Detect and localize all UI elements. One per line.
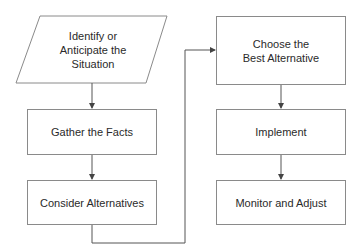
node-consider-label: Consider Alternatives (40, 196, 144, 210)
node-gather-label: Gather the Facts (51, 125, 133, 139)
node-implement: Implement (216, 109, 346, 155)
node-choose-label: Choose the Best Alternative (243, 37, 319, 65)
node-identify-label: Identify or Anticipate the Situation (60, 29, 127, 71)
node-gather: Gather the Facts (27, 109, 157, 155)
node-identify: Identify or Anticipate the Situation (30, 16, 156, 83)
node-consider: Consider Alternatives (27, 180, 157, 225)
node-implement-label: Implement (255, 125, 306, 139)
node-choose: Choose the Best Alternative (216, 16, 346, 85)
node-monitor-label: Monitor and Adjust (235, 196, 326, 210)
node-monitor: Monitor and Adjust (216, 180, 346, 225)
